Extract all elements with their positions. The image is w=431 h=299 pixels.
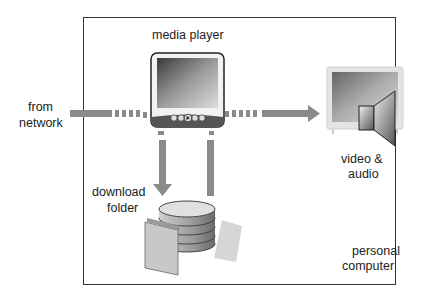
video-audio-label-line1: video &	[341, 152, 383, 167]
download-arrow	[153, 131, 172, 196]
output-arrow	[225, 105, 320, 122]
media-player-icon	[151, 53, 224, 127]
from-network-label-line1: from	[28, 100, 53, 115]
from-network-label-line2: network	[19, 116, 63, 131]
media-player-label: media player	[152, 28, 224, 43]
download-folder-icon	[145, 201, 242, 275]
download-folder-label-line2: folder	[107, 201, 138, 216]
network-input-arrow	[70, 110, 147, 118]
playback-from-folder-line	[207, 131, 214, 196]
personal-computer-label-line2: computer	[342, 259, 394, 274]
video-audio-output-icon	[327, 67, 403, 146]
personal-computer-label-line1: personal	[352, 244, 400, 259]
video-audio-label-line2: audio	[348, 167, 379, 182]
download-folder-label-line1: download	[92, 185, 146, 200]
